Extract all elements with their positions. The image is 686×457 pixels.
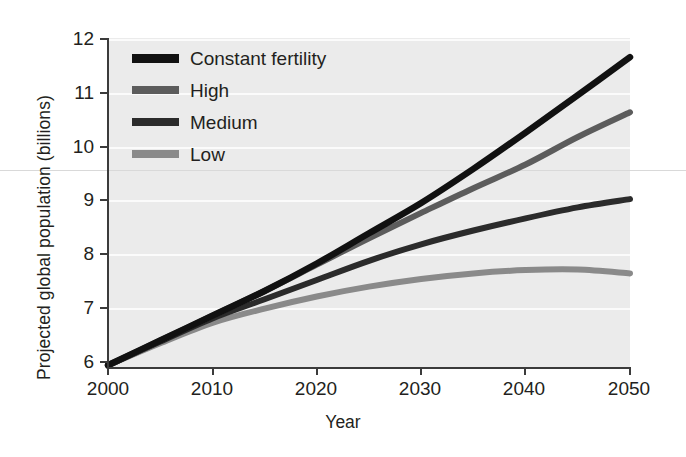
x-tick-label-2020: 2020 bbox=[281, 378, 351, 400]
legend-swatch-medium bbox=[132, 118, 179, 126]
x-tick-mark-2040 bbox=[524, 368, 526, 375]
legend: Constant fertility High Medium Low bbox=[132, 42, 362, 170]
y-tick-mark-8 bbox=[100, 253, 107, 255]
legend-swatch-high bbox=[132, 86, 179, 94]
legend-item-high: High bbox=[132, 74, 362, 106]
x-tick-mark-2030 bbox=[420, 368, 422, 375]
y-tick-label-12: 12 bbox=[52, 28, 94, 50]
series-path-medium bbox=[108, 199, 630, 365]
legend-item-medium: Medium bbox=[132, 106, 362, 138]
legend-swatch-low bbox=[132, 150, 179, 158]
x-tick-mark-2020 bbox=[316, 368, 318, 375]
x-tick-mark-2000 bbox=[107, 368, 109, 375]
y-tick-mark-10 bbox=[100, 146, 107, 148]
legend-label-high: High bbox=[190, 81, 229, 100]
legend-item-low: Low bbox=[132, 138, 362, 170]
x-tick-label-2000: 2000 bbox=[73, 378, 143, 400]
x-tick-label-2040: 2040 bbox=[489, 378, 559, 400]
x-axis-line bbox=[107, 367, 631, 369]
legend-label-constant-fertility: Constant fertility bbox=[190, 49, 326, 68]
y-tick-mark-6 bbox=[100, 361, 107, 363]
y-tick-mark-11 bbox=[100, 92, 107, 94]
x-tick-label-2010: 2010 bbox=[177, 378, 247, 400]
y-tick-mark-12 bbox=[100, 38, 107, 40]
x-axis-title: Year bbox=[0, 412, 686, 433]
legend-item-constant-fertility: Constant fertility bbox=[132, 42, 362, 74]
series-path-low bbox=[108, 269, 630, 365]
population-projection-chart: 12 11 10 9 8 7 6 2000 2010 2020 2030 204… bbox=[0, 0, 686, 457]
legend-label-low: Low bbox=[190, 145, 225, 164]
x-tick-mark-2010 bbox=[212, 368, 214, 375]
x-tick-label-2050: 2050 bbox=[594, 378, 664, 400]
legend-swatch-constant-fertility bbox=[132, 54, 179, 63]
y-axis-line bbox=[107, 38, 109, 370]
y-tick-mark-7 bbox=[100, 307, 107, 309]
x-tick-label-2030: 2030 bbox=[385, 378, 455, 400]
x-tick-mark-2050 bbox=[629, 368, 631, 375]
legend-label-medium: Medium bbox=[190, 113, 258, 132]
y-axis-title: Projected global population (billions) bbox=[34, 50, 68, 380]
y-tick-mark-9 bbox=[100, 199, 107, 201]
